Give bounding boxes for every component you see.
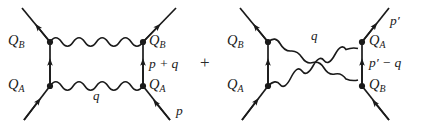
right-photon-crossed-b xyxy=(268,47,358,86)
left-charge-label-top-right: QB xyxy=(149,33,166,50)
diagram-canvas xyxy=(0,0,425,127)
right-external-line-lower-left xyxy=(242,86,268,120)
right-photon-crossed-a xyxy=(268,39,358,80)
right-internal-momentum-label: p′ − q xyxy=(369,56,401,70)
right-photon-momentum-label: q xyxy=(311,29,318,42)
left-photon-top xyxy=(50,38,143,46)
feynman-diagram-figure: QB QB QA QA p + q q p + QB QA QA QB p′ p… xyxy=(0,0,425,127)
left-charge-label-bottom-right: QA xyxy=(149,77,166,94)
right-outgoing-momentum-label: p′ xyxy=(390,14,400,28)
right-charge-label-bottom-right: QB xyxy=(369,77,386,94)
right-charge-label-top-right: QA xyxy=(369,33,386,50)
left-charge-label-bottom-left: QA xyxy=(8,77,25,94)
right-charge-label-bottom-left: QA xyxy=(227,77,244,94)
right-vertex-bottom-left xyxy=(265,83,271,89)
left-vertex-bottom-right xyxy=(140,83,146,89)
right-vertex-top-right xyxy=(359,39,365,45)
right-vertex-bottom-right xyxy=(359,83,365,89)
left-photon-momentum-label: q xyxy=(93,89,100,102)
left-vertex-bottom-left xyxy=(47,83,53,89)
right-external-line-upper-left xyxy=(240,8,268,42)
right-vertex-top-left xyxy=(265,39,271,45)
left-external-line-lower-left xyxy=(24,86,50,120)
right-charge-label-top-left: QB xyxy=(227,33,244,50)
plus-operator: + xyxy=(200,53,210,73)
left-incoming-momentum-label: p xyxy=(176,104,183,118)
left-vertex-top-left xyxy=(47,39,53,45)
right-diagram-group xyxy=(240,8,389,120)
left-vertex-top-right xyxy=(140,39,146,45)
left-charge-label-top-left: QB xyxy=(8,33,25,50)
left-external-line-upper-left xyxy=(22,8,50,42)
left-internal-momentum-label: p + q xyxy=(149,57,178,71)
